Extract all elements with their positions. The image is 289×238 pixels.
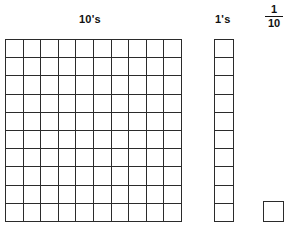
tens-grid-cell[interactable]	[24, 95, 42, 113]
tens-grid-cell[interactable]	[164, 186, 182, 204]
tens-grid-cell[interactable]	[6, 186, 24, 204]
tens-grid-cell[interactable]	[24, 167, 42, 185]
ones-column-strip[interactable]	[214, 39, 234, 222]
tens-grid-cell[interactable]	[164, 76, 182, 94]
tens-grid-cell[interactable]	[129, 131, 147, 149]
tens-grid-cell[interactable]	[59, 58, 77, 76]
tens-grid-cell[interactable]	[41, 204, 59, 222]
ones-strip-cell[interactable]	[215, 113, 234, 131]
tens-grid-cell[interactable]	[94, 186, 112, 204]
ones-strip-cell[interactable]	[215, 204, 234, 222]
tens-grid-cell[interactable]	[76, 95, 94, 113]
tens-grid-cell[interactable]	[147, 167, 165, 185]
tens-grid-cell[interactable]	[112, 40, 130, 58]
tens-grid-cell[interactable]	[6, 204, 24, 222]
tens-grid-cell[interactable]	[59, 204, 77, 222]
tens-grid-cell[interactable]	[129, 58, 147, 76]
tens-grid-cell[interactable]	[147, 58, 165, 76]
tens-grid-cell[interactable]	[59, 186, 77, 204]
tens-grid-cell[interactable]	[59, 95, 77, 113]
tens-grid-cell[interactable]	[24, 58, 42, 76]
tens-grid-cell[interactable]	[129, 186, 147, 204]
tenths-unit-square[interactable]	[263, 201, 284, 222]
tens-grid-cell[interactable]	[164, 149, 182, 167]
tens-grid-cell[interactable]	[41, 186, 59, 204]
tens-grid-cell[interactable]	[147, 95, 165, 113]
tens-grid-cell[interactable]	[24, 204, 42, 222]
tens-grid-cell[interactable]	[147, 76, 165, 94]
tens-grid-cell[interactable]	[59, 76, 77, 94]
tens-grid-cell[interactable]	[147, 149, 165, 167]
tens-grid-cell[interactable]	[164, 95, 182, 113]
tens-grid-cell[interactable]	[147, 204, 165, 222]
tens-grid-cell[interactable]	[6, 58, 24, 76]
tens-grid-cell[interactable]	[76, 131, 94, 149]
tens-grid-cell[interactable]	[129, 204, 147, 222]
tens-grid-cell[interactable]	[112, 113, 130, 131]
tens-grid-cell[interactable]	[59, 113, 77, 131]
tens-grid-cell[interactable]	[94, 113, 112, 131]
tens-grid-cell[interactable]	[6, 95, 24, 113]
tens-grid-cell[interactable]	[24, 76, 42, 94]
tens-grid-cell[interactable]	[76, 149, 94, 167]
tens-grid-cell[interactable]	[112, 149, 130, 167]
tens-grid-cell[interactable]	[41, 95, 59, 113]
tens-grid-cell[interactable]	[24, 113, 42, 131]
ones-strip-cell[interactable]	[215, 76, 234, 94]
tens-grid-cell[interactable]	[129, 95, 147, 113]
tens-grid-cell[interactable]	[76, 204, 94, 222]
tens-grid-cell[interactable]	[129, 76, 147, 94]
tens-grid-cell[interactable]	[6, 40, 24, 58]
tens-grid-cell[interactable]	[41, 40, 59, 58]
tens-grid-cell[interactable]	[129, 149, 147, 167]
tens-grid-cell[interactable]	[6, 113, 24, 131]
tens-grid-cell[interactable]	[147, 131, 165, 149]
ones-strip-cell[interactable]	[215, 167, 234, 185]
ones-strip-cell[interactable]	[215, 131, 234, 149]
tens-grid-cell[interactable]	[129, 113, 147, 131]
tens-grid-cell[interactable]	[76, 76, 94, 94]
tens-grid-cell[interactable]	[24, 40, 42, 58]
tens-grid-cell[interactable]	[94, 149, 112, 167]
tens-grid-cell[interactable]	[147, 186, 165, 204]
tens-grid-cell[interactable]	[94, 167, 112, 185]
tens-grid-cell[interactable]	[112, 167, 130, 185]
tens-grid-cell[interactable]	[59, 40, 77, 58]
tens-grid-cell[interactable]	[41, 167, 59, 185]
tens-column-grid[interactable]	[5, 39, 182, 222]
ones-strip-cell[interactable]	[215, 40, 234, 58]
tens-grid-cell[interactable]	[24, 186, 42, 204]
tens-grid-cell[interactable]	[76, 40, 94, 58]
tens-grid-cell[interactable]	[112, 204, 130, 222]
tens-grid-cell[interactable]	[24, 149, 42, 167]
tens-grid-cell[interactable]	[6, 149, 24, 167]
tens-grid-cell[interactable]	[164, 131, 182, 149]
tens-grid-cell[interactable]	[24, 131, 42, 149]
tens-grid-cell[interactable]	[164, 204, 182, 222]
ones-strip-cell[interactable]	[215, 186, 234, 204]
tens-grid-cell[interactable]	[41, 58, 59, 76]
tens-grid-cell[interactable]	[41, 113, 59, 131]
tens-grid-cell[interactable]	[6, 167, 24, 185]
tens-grid-cell[interactable]	[129, 167, 147, 185]
tens-grid-cell[interactable]	[112, 131, 130, 149]
ones-strip-cell[interactable]	[215, 149, 234, 167]
tens-grid-cell[interactable]	[6, 76, 24, 94]
tens-grid-cell[interactable]	[94, 76, 112, 94]
tens-grid-cell[interactable]	[59, 149, 77, 167]
tens-grid-cell[interactable]	[112, 186, 130, 204]
tens-grid-cell[interactable]	[76, 167, 94, 185]
tens-grid-cell[interactable]	[76, 58, 94, 76]
tens-grid-cell[interactable]	[94, 131, 112, 149]
tens-grid-cell[interactable]	[41, 76, 59, 94]
tens-grid-cell[interactable]	[112, 58, 130, 76]
tens-grid-cell[interactable]	[59, 167, 77, 185]
tens-grid-cell[interactable]	[147, 113, 165, 131]
tens-grid-cell[interactable]	[164, 58, 182, 76]
tens-grid-cell[interactable]	[147, 40, 165, 58]
tens-grid-cell[interactable]	[94, 58, 112, 76]
tens-grid-cell[interactable]	[94, 204, 112, 222]
tens-grid-cell[interactable]	[164, 167, 182, 185]
tens-grid-cell[interactable]	[164, 40, 182, 58]
tens-grid-cell[interactable]	[112, 95, 130, 113]
